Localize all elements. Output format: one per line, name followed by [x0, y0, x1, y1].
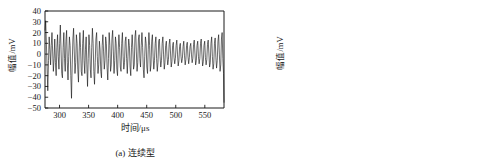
chart-a-ylabel: 幅值/mV: [5, 27, 17, 83]
figure-container: −50−40−30−20−100102030403003504004505005…: [0, 0, 483, 165]
y-tick-label: −40: [28, 92, 41, 102]
chart-panel-b: −15−10−5051015−100102030405060708090 幅值/…: [242, 0, 483, 165]
x-tick-label: 350: [82, 110, 95, 120]
y-tick-label: −10: [28, 60, 41, 70]
chart-a-xlabel: 时间/μs: [45, 121, 225, 134]
x-tick-label: 450: [140, 110, 153, 120]
chart-a-plot: −50−40−30−20−100102030403003504004505005…: [0, 0, 242, 165]
x-tick-label: 500: [169, 110, 182, 120]
chart-panel-a: −50−40−30−20−100102030403003504004505005…: [0, 0, 242, 165]
waveform-line: [45, 21, 224, 103]
y-tick-label: 0: [37, 49, 41, 59]
y-tick-label: −50: [28, 103, 41, 113]
y-tick-label: 20: [33, 28, 42, 38]
chart-b-ylabel: 幅值/mV: [273, 25, 285, 81]
y-tick-label: 30: [33, 17, 42, 27]
x-tick-label: 400: [111, 110, 124, 120]
chart-a-caption: (a) 连续型: [45, 146, 225, 159]
y-tick-label: 10: [33, 38, 42, 48]
x-tick-label: 550: [198, 110, 211, 120]
y-tick-label: −20: [28, 71, 41, 81]
x-tick-label: 300: [53, 110, 66, 120]
y-tick-label: 40: [33, 6, 42, 16]
y-tick-label: −30: [28, 81, 41, 91]
